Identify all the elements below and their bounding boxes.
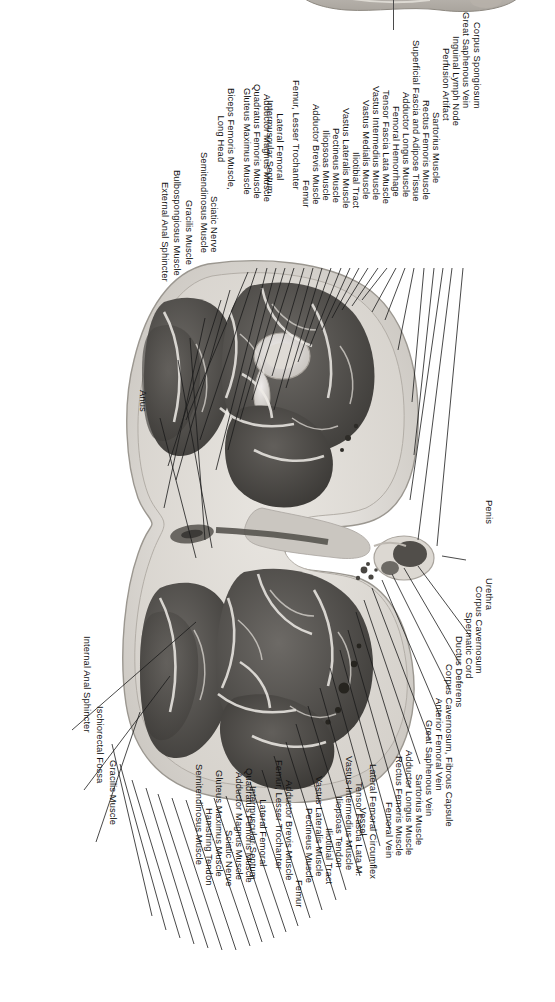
label-anterior-femoral-vein: Anterior Femoral Vein (434, 698, 444, 791)
label-iliopsoas-tendon: Iliopsoas Tendon (334, 796, 344, 868)
label-inguinal-lymph-node: Inguinal Lymph Node (451, 36, 461, 126)
label-vastus-medialis-muscle: Vastus Medialis Muscle (361, 100, 371, 199)
figure-page: Right 1 Corpus Spongiosum Great Saphenou… (0, 0, 555, 1002)
label-quadratus-femoris-muscle-bottom: Quadratus Femoris Muscle (244, 768, 254, 883)
label-femur-bottom: Femur (294, 880, 304, 908)
label-iliotibial-tract-bottom: Iliotibial Tract (324, 828, 334, 884)
label-penis: Penis (484, 500, 494, 524)
label-femur-lesser-trochanter-top: Femur, Lesser Trochanter (291, 80, 301, 190)
label-line-2: Long Head (216, 88, 226, 190)
label-iliotibial-tract-top: Iliotibial Tract (351, 152, 361, 208)
label-ischiorectal-fossa: Ischiorectal Fossa (95, 706, 105, 783)
label-internal-anal-sphincter: Internal Anal Sphincter (82, 636, 92, 733)
label-adductor-brevis-muscle-top: Adductor Brevis Muscle (311, 104, 321, 205)
label-adductor-magnus-muscle-top: Adductor Magnus Muscle (262, 94, 272, 202)
label-quadratus-femoris-muscle-top: Quadratus Femoris Muscle (252, 84, 262, 199)
label-line-1: Lateral Femoral (258, 786, 268, 880)
label-external-anal-sphincter: External Anal Sphincter (160, 182, 170, 282)
label-gluteus-maximus-muscle-bottom: Gluteus Maximus Muscle (214, 770, 224, 877)
label-adductor-brevis-muscle-bottom: Adductor Brevis Muscle (284, 780, 294, 881)
label-gluteus-maximus-muscle-top: Gluteus Maximus Muscle (242, 88, 252, 195)
label-adductor-longus-muscle-top: Adductor Longus Muscle (401, 92, 411, 197)
label-femur-lesser-trochanter-bottom: Femur, Lesser Trochanter (274, 760, 284, 870)
label-corpus-spongiosum: Corpus Spongiosum (472, 22, 482, 109)
label-urethra: Urethra (484, 578, 494, 610)
label-great-saphenous-vein: Great Saphenous Vein (461, 12, 471, 108)
label-bulbospongiosus-muscle: Bulbospongiosus Muscle (172, 170, 182, 276)
label-pectineus-muscle-top: Pectineus Muscle (331, 128, 341, 203)
label-tensor-fascia-lata-muscle: Tensor Fascia Lata Muscle (381, 90, 391, 204)
label-vastus-intermedius-muscle-bottom: Vastus Intermedius Muscle (344, 756, 354, 870)
label-rectus-femoris-muscle-bottom: Rectus Femoris Muscle (394, 756, 404, 856)
label-sartorius-muscle-bottom: Sartorius Muscle (414, 774, 424, 845)
label-gracilis-muscle-bottom: Gracilis Muscle (108, 760, 118, 825)
label-line-1: Lateral Femoral (275, 100, 285, 194)
label-gracilis-muscle-top: Gracilis Muscle (184, 200, 194, 265)
label-rectus-femoris-muscle-top: Rectus Femoris Muscle (421, 100, 431, 200)
label-biceps-femoris-long-head: Biceps Femoris Muscle, Long Head (216, 88, 236, 190)
label-sciatic-nerve-bottom: Sciatic Nerve (224, 830, 234, 887)
label-femoral-hemorrhage: Femoral Hemorrhage (391, 106, 401, 197)
label-corpus-cavernosum: Corpus Cavernosum (474, 586, 484, 674)
label-anus: Anus (138, 390, 148, 412)
label-vastus-lateralis-muscle-top: Vastus Lateralis Muscle (341, 108, 351, 209)
label-tensor-fascia-lata-m: Tensor Fascia Lata M. (354, 782, 364, 876)
label-line-1: Lateral Femoral Circumflex (368, 764, 378, 879)
label-vastus-lateralis-muscle-bottom: Vastus Lateralis Muscle (314, 776, 324, 877)
label-semitendinosus-muscle-bottom: Semitendinosus Muscle (194, 764, 204, 865)
label-line-1: Biceps Femoris Muscle, (226, 88, 236, 190)
label-sartorius-muscle-top: Sartorius Muscle (431, 112, 441, 183)
label-great-saphenous-vein-bottom: Great Saphenous Vein (424, 720, 434, 816)
label-iliopsoas-muscle: Iliopsoas Muscle (321, 130, 331, 201)
label-semitendinosus-muscle-top: Semitendinosus Muscle (199, 152, 209, 253)
label-femoral-vein: Femoral Vein (384, 802, 394, 858)
label-superficial-fascia-adipose: Superficial Fascia and Adipose Tissue (411, 40, 421, 202)
label-pectineus-muscle-bottom: Pectineus Muscle (304, 808, 314, 883)
label-ductus-deferens: Ductus Deferens (454, 636, 464, 707)
label-sciatic-nerve-top: Sciatic Nerve (209, 196, 219, 253)
label-hamstring-tendon: Hamstring Tendon (204, 808, 214, 886)
label-spermatic-cord: Spermatic Cord (464, 612, 474, 679)
label-corpus-cavernosum-fibrous-capsule: Corpus Cavernosum, Fibrous Capsule (444, 664, 454, 827)
label-adductor-magnus-muscle-bottom: Adductor Magnus Muscle (234, 772, 244, 880)
label-femur-top: Femur (301, 180, 311, 208)
label-perfusion-artifact: Perfusion Artifact (441, 48, 451, 121)
label-vastus-intermedius-muscle-top: Vastus Intermedius Muscle (371, 86, 381, 200)
label-adductor-longus-muscle-bottom: Adductor Longus Muscle (404, 750, 414, 855)
